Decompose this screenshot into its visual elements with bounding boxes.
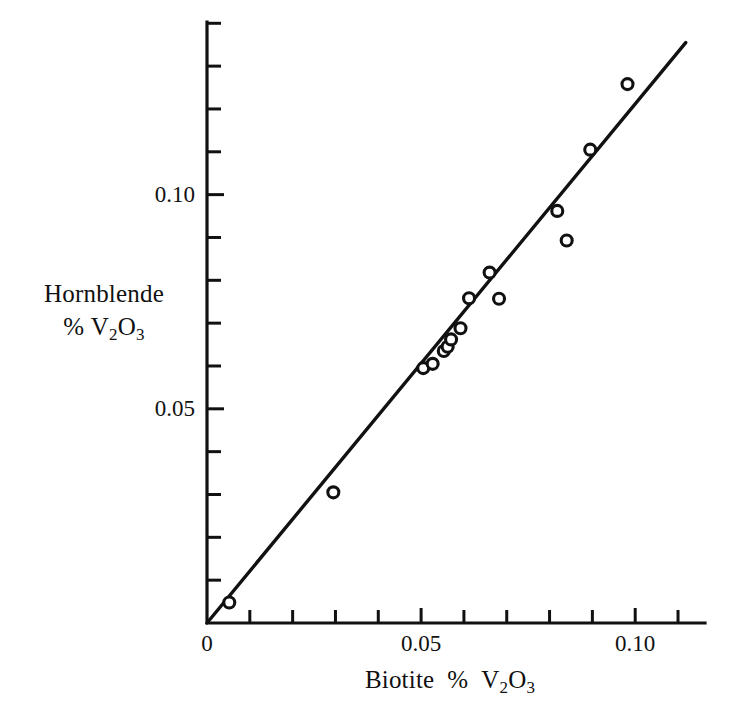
x-axis-label-text: Biotite: [365, 666, 434, 693]
data-point: [494, 293, 505, 304]
y-axis-v-subscript: 2: [109, 325, 118, 344]
data-point: [484, 267, 495, 278]
y-axis-percent-sign: %: [63, 313, 84, 340]
x-axis-label: Biotite % V2O3: [230, 666, 670, 698]
y-axis-o-symbol: O: [118, 313, 136, 340]
y-axis-v-symbol: V: [91, 313, 109, 340]
regression-line: [207, 43, 686, 623]
data-point: [446, 334, 457, 345]
scatter-plot-figure: Hornblende % V2O3 Biotite % V2O3 00.050.…: [0, 0, 744, 722]
y-axis-label-line2: % V2O3: [14, 311, 194, 345]
x-axis-ticks: [250, 608, 678, 623]
x-axis-percent-sign: %: [447, 666, 468, 693]
y-axis-ticks: [207, 23, 224, 580]
x-axis-v-subscript: 2: [499, 678, 508, 697]
data-point: [427, 358, 438, 369]
data-point: [224, 597, 235, 608]
x-axis-o-subscript: 3: [526, 678, 535, 697]
x-tick-label: 0.10: [615, 631, 655, 657]
x-axis-v-symbol: V: [481, 666, 499, 693]
y-axis-o-subscript: 3: [136, 325, 145, 344]
x-tick-label: 0: [201, 631, 213, 657]
data-point: [585, 144, 596, 155]
y-tick-label: 0.10: [155, 182, 195, 208]
data-point: [622, 79, 633, 90]
y-axis-label-line1: Hornblende: [44, 280, 164, 307]
data-point: [561, 235, 572, 246]
y-tick-label: 0.05: [155, 396, 195, 422]
x-axis-o-symbol: O: [508, 666, 526, 693]
y-axis-label: Hornblende % V2O3: [14, 278, 194, 345]
data-point: [464, 293, 475, 304]
plot-canvas: [0, 0, 744, 722]
data-point: [552, 205, 563, 216]
data-point: [328, 487, 339, 498]
data-point: [455, 323, 466, 334]
fit-line: [207, 43, 686, 623]
x-tick-label: 0.05: [401, 631, 441, 657]
